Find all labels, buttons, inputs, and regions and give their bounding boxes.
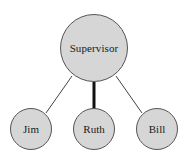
node-supervisor-label: Supervisor [70,43,119,54]
org-chart-diagram: Supervisor Jim Ruth Bill [0,0,187,160]
edge-supervisor-jim [46,76,72,113]
node-ruth: Ruth [73,108,115,150]
node-bill-label: Bill [149,124,166,135]
node-ruth-label: Ruth [83,124,104,135]
node-bill: Bill [136,108,178,150]
node-supervisor: Supervisor [60,14,128,82]
edge-supervisor-bill [116,76,142,113]
node-jim-label: Jim [23,124,39,135]
node-jim: Jim [10,108,52,150]
